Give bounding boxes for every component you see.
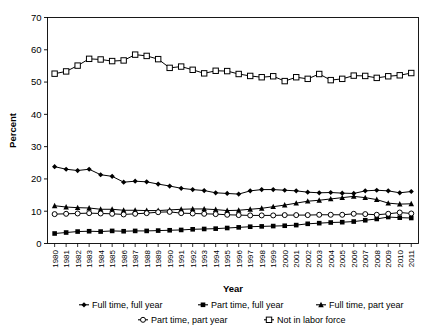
data-point	[144, 53, 149, 58]
x-axis-title: Year	[223, 283, 243, 294]
data-point	[190, 67, 195, 72]
data-point	[110, 229, 115, 234]
data-point	[156, 210, 161, 215]
data-point	[248, 213, 253, 218]
data-point	[236, 225, 241, 230]
data-point	[213, 226, 218, 231]
percent-by-work-status-line-chart: 010203040506070Percent198019811982198319…	[0, 0, 429, 336]
data-point	[201, 71, 206, 76]
data-point	[363, 73, 368, 78]
legend-label: Full time, part year	[329, 300, 404, 310]
y-axis-tick-label: 10	[31, 206, 42, 217]
x-axis-tick-label: 1997	[246, 249, 255, 267]
data-point	[282, 223, 287, 228]
x-axis-tick-label: 1996	[235, 249, 244, 267]
x-axis-tick-label: 1989	[154, 249, 163, 267]
data-point	[294, 213, 299, 218]
data-point	[202, 227, 207, 232]
x-axis-tick-label: 1982	[74, 249, 83, 267]
data-point	[98, 211, 103, 216]
x-axis-tick-label: 2005	[338, 249, 347, 267]
data-point	[190, 211, 195, 216]
data-point	[282, 78, 287, 83]
y-axis-tick-label: 50	[31, 76, 42, 87]
data-point	[156, 228, 161, 233]
x-axis-tick-label: 2007	[361, 249, 370, 267]
data-point	[386, 74, 391, 79]
data-point	[109, 58, 114, 63]
legend-item[interactable]: Part time, full year	[198, 300, 284, 310]
x-axis-tick-label: 2011	[407, 249, 416, 267]
data-point	[52, 212, 57, 217]
data-point	[282, 213, 287, 218]
data-point	[259, 224, 264, 229]
data-point	[202, 211, 207, 216]
x-axis-tick-label: 1994	[212, 249, 221, 267]
y-axis-tick-label: 0	[36, 238, 41, 249]
data-point	[294, 223, 299, 228]
data-point	[305, 213, 310, 218]
legend-marker-open-circle-icon	[141, 317, 146, 322]
x-axis-tick-label: 1992	[189, 249, 198, 267]
y-axis-title: Percent	[7, 112, 18, 148]
data-point	[213, 212, 218, 217]
x-axis-tick-label: 2009	[384, 249, 393, 267]
legend-label: Full time, full year	[92, 300, 163, 310]
data-point	[179, 211, 184, 216]
data-point	[247, 73, 252, 78]
x-axis-tick-label: 1998	[258, 249, 267, 267]
y-axis-tick-label: 40	[31, 109, 42, 120]
data-point	[121, 229, 126, 234]
data-point	[259, 213, 264, 218]
data-point	[144, 229, 149, 234]
legend: Full time, full yearPart time, full year…	[79, 300, 404, 325]
data-point	[340, 220, 345, 225]
x-axis-tick-label: 2010	[396, 249, 405, 267]
data-point	[133, 211, 138, 216]
data-point	[351, 219, 356, 224]
y-axis-tick-label: 20	[31, 173, 42, 184]
legend-label: Part time, full year	[211, 300, 284, 310]
data-point	[179, 228, 184, 233]
data-point	[110, 211, 115, 216]
x-axis-tick-label: 2008	[373, 249, 382, 267]
x-axis-tick-label: 1987	[131, 249, 140, 267]
y-axis-tick-label: 60	[31, 44, 42, 55]
x-axis-tick-label: 1988	[143, 249, 152, 267]
legend-item[interactable]: Not in labor force	[264, 315, 346, 325]
legend-item[interactable]: Full time, full year	[79, 300, 163, 310]
data-point	[271, 74, 276, 79]
legend-marker-open-square-icon	[266, 317, 271, 322]
chart-container: 010203040506070Percent198019811982198319…	[0, 0, 429, 336]
data-point	[363, 218, 368, 223]
data-point	[75, 63, 80, 68]
x-axis-tick-label: 1999	[269, 249, 278, 267]
data-point	[98, 229, 103, 234]
data-point	[87, 229, 92, 234]
data-point	[64, 211, 69, 216]
data-point	[328, 212, 333, 217]
data-point	[224, 68, 229, 73]
x-axis-tick-label: 1993	[200, 249, 209, 267]
data-point	[305, 222, 310, 227]
legend-marker-filled-diamond-icon	[81, 302, 86, 307]
data-point	[132, 52, 137, 57]
data-point	[63, 69, 68, 74]
x-axis-tick-label: 2002	[304, 249, 313, 267]
legend-item[interactable]: Part time, part year	[138, 315, 228, 325]
legend-item[interactable]: Full time, part year	[316, 300, 404, 310]
data-point	[121, 58, 126, 63]
data-point	[328, 220, 333, 225]
data-point	[340, 212, 345, 217]
data-point	[87, 211, 92, 216]
legend-label: Part time, part year	[151, 315, 228, 325]
data-point	[144, 211, 149, 216]
x-axis-tick-label: 1995	[223, 249, 232, 267]
x-axis-tick-label: 2003	[315, 249, 324, 267]
x-axis-tick-label: 2004	[327, 249, 336, 267]
data-point	[98, 57, 103, 62]
data-point	[340, 76, 345, 81]
data-point	[236, 71, 241, 76]
data-point	[236, 213, 241, 218]
data-point	[121, 212, 126, 217]
